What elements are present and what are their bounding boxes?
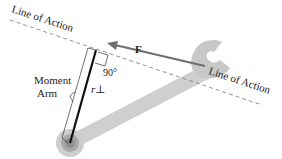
force-label: F bbox=[135, 43, 142, 55]
line-of-action-label-right: Line of Action bbox=[207, 64, 272, 95]
torque-diagram: Line of Action Line of Action F 90° Mome… bbox=[0, 0, 282, 159]
r-perp-label: r⊥ bbox=[91, 83, 106, 95]
line-of-action-label-left: Line of Action bbox=[10, 2, 75, 33]
moment-arm-label-line2: Arm bbox=[37, 87, 58, 99]
force-arrow bbox=[107, 41, 205, 66]
right-angle-marker bbox=[95, 52, 108, 66]
right-angle-label: 90° bbox=[103, 67, 117, 78]
moment-arm-label-line1: Moment bbox=[34, 74, 71, 86]
